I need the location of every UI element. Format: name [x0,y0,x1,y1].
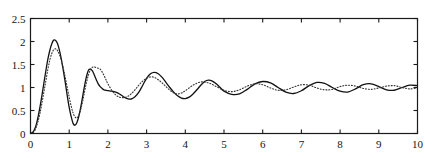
x-tick-label: 7 [299,138,305,150]
x-tick-label: 6 [260,138,266,150]
x-tick-label: 9 [376,138,382,150]
x-tick-label: 0 [28,138,34,150]
y-tick-label: 0.5 [12,105,26,117]
y-tick-label: 1 [20,82,26,94]
chart-plot-svg: 00.511.522.5 012345678910 [0,0,439,158]
x-tick-label: 3 [144,138,150,150]
x-tick-label: 10 [412,138,424,150]
y-tick-label: 2 [20,36,26,48]
x-tick-label: 1 [66,138,72,150]
x-tick-label: 8 [337,138,343,150]
x-tick-label: 4 [183,138,189,150]
chart-figure: 00.511.522.5 012345678910 [0,0,439,158]
x-tick-label: 5 [221,138,227,150]
x-tick-label: 2 [105,138,111,150]
y-tick-label: 1.5 [12,59,26,71]
y-tick-label: 2.5 [12,13,26,25]
y-tick-label: 0 [20,128,26,140]
